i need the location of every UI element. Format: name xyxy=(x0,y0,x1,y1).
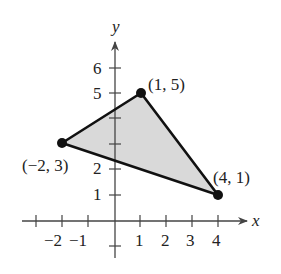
x-tick-label: 3 xyxy=(186,231,195,250)
y-tick-label: 1 xyxy=(93,185,102,204)
y-tick-label: 5 xyxy=(93,84,102,103)
y-tick-label: 6 xyxy=(93,59,102,78)
y-axis-label: y xyxy=(110,17,120,36)
x-tick-label: 2 xyxy=(161,231,170,250)
vertex-point xyxy=(136,88,146,98)
x-tick-label: 4 xyxy=(212,231,221,250)
y-tick-label: 2 xyxy=(93,159,102,178)
point-label: (1, 5) xyxy=(148,75,185,94)
x-tick-label: 1 xyxy=(135,231,144,250)
x-tick-label: −1 xyxy=(69,231,87,250)
triangle-plot: y x −2 −1 1 2 3 4 1 2 5 6 (1, 5) (−2, 3)… xyxy=(0,0,281,274)
vertex-point xyxy=(57,138,67,148)
x-tick-label: −2 xyxy=(44,231,62,250)
vertex-point xyxy=(213,190,223,200)
triangle-fill xyxy=(62,93,218,195)
point-label: (4, 1) xyxy=(213,168,250,187)
point-label: (−2, 3) xyxy=(22,156,68,175)
x-axis-label: x xyxy=(251,211,260,230)
